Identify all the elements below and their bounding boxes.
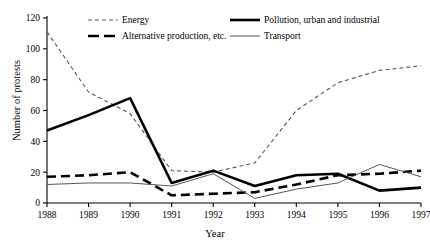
legend-item-alternative-production[interactable]: Alternative production, etc. — [88, 31, 230, 41]
legend-swatch-pollution — [230, 15, 260, 25]
x-axis-tick-label: 1990 — [121, 210, 140, 220]
y-axis-tick-label: 120 — [26, 13, 41, 23]
y-axis-tick-label: 40 — [31, 137, 41, 147]
y-axis-title: Number of protests — [11, 41, 22, 161]
chart-container: 0204060801001201988198919901991199219931… — [0, 0, 430, 250]
y-axis-tick-label: 60 — [31, 106, 41, 116]
x-axis-tick-label: 1997 — [412, 210, 430, 220]
legend-label-energy: Energy — [122, 15, 149, 25]
legend-label-pollution: Pollution, urban and industrial — [264, 15, 380, 25]
series-line-transport — [47, 164, 421, 198]
legend-label-alternative-production: Alternative production, etc. — [122, 31, 226, 41]
legend-item-pollution[interactable]: Pollution, urban and industrial — [230, 15, 418, 25]
x-axis-tick-label: 1989 — [79, 210, 98, 220]
y-axis-tick-label: 20 — [31, 168, 41, 178]
x-axis-tick-label: 1995 — [328, 210, 347, 220]
x-axis-tick-label: 1988 — [38, 210, 57, 220]
legend-swatch-transport — [230, 31, 260, 41]
series-line-energy — [47, 32, 421, 172]
x-axis-tick-label: 1994 — [287, 210, 306, 220]
legend-item-transport[interactable]: Transport — [230, 31, 418, 41]
legend-swatch-energy — [88, 15, 118, 25]
legend-item-energy[interactable]: Energy — [88, 15, 230, 25]
x-axis-tick-label: 1996 — [370, 210, 389, 220]
series-line-pollution-urban-and-industrial — [47, 98, 421, 191]
y-axis-tick-label: 100 — [26, 44, 41, 54]
y-axis-tick-label: 0 — [35, 198, 40, 208]
x-axis-tick-label: 1991 — [162, 210, 181, 220]
x-axis-tick-label: 1993 — [245, 210, 264, 220]
x-axis-tick-label: 1992 — [204, 210, 223, 220]
legend-swatch-alternative-production — [88, 31, 118, 41]
x-axis-title: Year — [0, 228, 430, 239]
y-axis-tick-label: 80 — [31, 75, 41, 85]
chart-legend: Energy Pollution, urban and industrial A… — [88, 12, 418, 44]
legend-label-transport: Transport — [264, 31, 301, 41]
